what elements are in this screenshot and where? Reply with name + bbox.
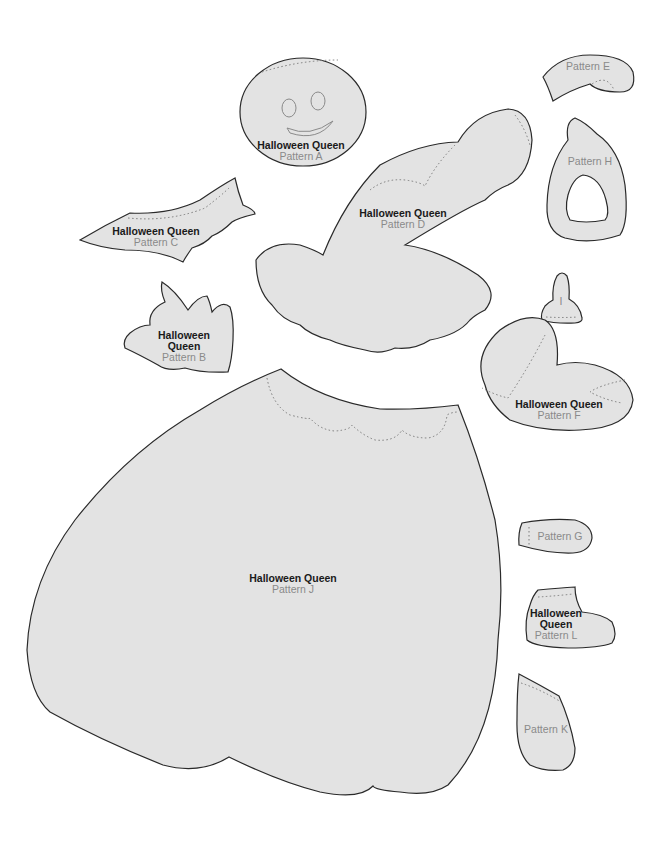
pattern-h-name: Pattern H xyxy=(568,156,612,167)
pattern-e-label: Pattern E xyxy=(566,61,610,72)
pattern-f-label: Halloween Queen Pattern F xyxy=(515,399,603,421)
pattern-g-name: Pattern G xyxy=(538,531,583,542)
pattern-c-piece xyxy=(80,178,255,262)
pattern-e-name: Pattern E xyxy=(566,61,610,72)
pattern-j-label: Halloween Queen Pattern J xyxy=(249,573,337,595)
pattern-d-label: Halloween Queen Pattern D xyxy=(359,208,447,230)
pattern-j-name: Pattern J xyxy=(249,584,337,595)
pattern-b-label: Halloween Queen Pattern B xyxy=(158,330,210,363)
pattern-h-piece xyxy=(547,118,626,241)
pattern-c-name: Pattern C xyxy=(112,237,200,248)
pattern-l-name: Pattern L xyxy=(530,630,582,641)
pattern-a-name: Pattern A xyxy=(257,151,345,162)
pattern-d-name: Pattern D xyxy=(359,219,447,230)
pattern-k-name: Pattern K xyxy=(524,724,568,735)
pattern-h-label: Pattern H xyxy=(568,156,612,167)
pattern-i-label: I xyxy=(560,296,563,307)
pattern-a-label: Halloween Queen Pattern A xyxy=(257,140,345,162)
pattern-f-name: Pattern F xyxy=(515,410,603,421)
pattern-i-name: I xyxy=(560,296,563,307)
pattern-c-label: Halloween Queen Pattern C xyxy=(112,226,200,248)
pattern-k-label: Pattern K xyxy=(524,724,568,735)
pattern-g-label: Pattern G xyxy=(538,531,583,542)
pattern-b-name: Pattern B xyxy=(158,352,210,363)
pattern-l-label: Halloween Queen Pattern L xyxy=(530,608,582,641)
pattern-sheet xyxy=(0,0,665,844)
